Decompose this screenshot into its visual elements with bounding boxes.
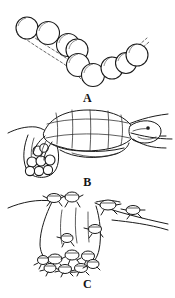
egg-icon <box>34 166 43 175</box>
hatchling-icon <box>57 234 74 248</box>
egg-icon <box>25 166 34 175</box>
turtle-icon <box>33 110 172 160</box>
hatchling-icon <box>71 264 89 277</box>
panel-c: C <box>0 186 175 298</box>
egg-icon <box>37 22 60 45</box>
egg-icon <box>27 157 37 167</box>
figure-root: A <box>0 0 175 298</box>
hatchling-icon <box>61 192 83 207</box>
panel-a: A <box>0 0 175 108</box>
egg-icon <box>45 155 55 165</box>
hatchling-icon <box>55 265 73 278</box>
egg-icon <box>126 44 148 66</box>
hatchling-icon <box>121 206 145 220</box>
egg-icon <box>16 17 38 39</box>
hatchling-icon <box>95 200 121 215</box>
panel-c-label: C <box>0 278 175 290</box>
egg-icon <box>43 165 52 174</box>
hatchling-icon <box>40 264 56 277</box>
hatchling-icon <box>61 250 80 265</box>
panel-b: B <box>0 100 175 190</box>
